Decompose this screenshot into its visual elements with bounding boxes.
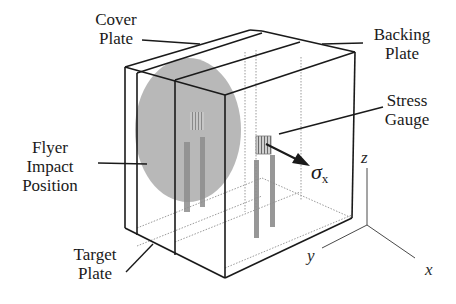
- label-cover-plate: Cover Plate: [86, 10, 146, 48]
- backing-plate-leader: [322, 43, 363, 44]
- flyer-impact-leader: [98, 163, 147, 164]
- x-axis: [367, 225, 415, 258]
- stress-gauge-leader: [279, 107, 383, 134]
- label-stress-gauge: Stress Gauge: [372, 91, 442, 129]
- y-axis-label: y: [307, 246, 315, 266]
- x-axis-label: x: [425, 260, 433, 280]
- label-backing-plate: Backing Plate: [362, 25, 442, 63]
- target-plate-leader: [126, 244, 153, 272]
- z-axis-label: z: [361, 148, 368, 168]
- cover-plate-leader: [142, 40, 200, 44]
- label-flyer-impact-position: Flyer Impact Position: [10, 138, 90, 195]
- sigma-x-label: σx: [311, 159, 328, 187]
- label-target-plate: Target Plate: [60, 245, 130, 283]
- plate-impact-diagram: Cover Plate Backing Plate Stress Gauge F…: [0, 0, 456, 304]
- coordinate-axes: [322, 168, 415, 258]
